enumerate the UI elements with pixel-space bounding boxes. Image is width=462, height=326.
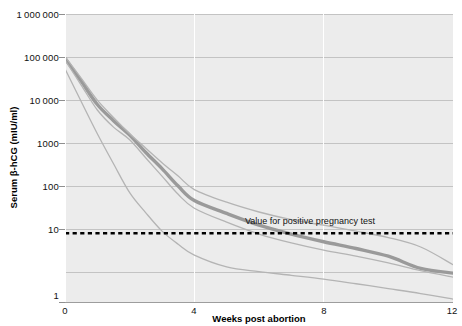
y-axis-tick-marks <box>59 15 65 303</box>
plot-area <box>0 0 462 326</box>
x-axis-title: Weeks post abortion <box>65 313 453 324</box>
chart-container: 1 000 000 100 000 10 000 1000 100 10 1 S… <box>0 0 462 326</box>
threshold-annotation-label: Value for positive pregnancy test <box>245 216 375 226</box>
